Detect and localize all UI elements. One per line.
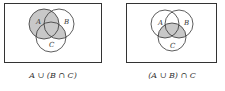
venn-diagram-right: A B C (A ∪ B) ∩ C <box>127 4 217 81</box>
label-c: C <box>170 42 176 50</box>
venn-diagrams: A B C A ∪ (B ∩ C) A B C (A ∪ B) ∩ C <box>0 0 225 91</box>
label-a: A <box>35 18 41 26</box>
venn-diagram-left: A B C A ∪ (B ∩ C) <box>5 4 102 81</box>
label-c: C <box>49 41 55 49</box>
label-b: B <box>63 18 69 26</box>
caption-left: A ∪ (B ∩ C) <box>28 71 77 80</box>
label-a: A <box>157 19 163 27</box>
label-b: B <box>183 19 189 27</box>
caption-right: (A ∪ B) ∩ C <box>148 71 196 80</box>
